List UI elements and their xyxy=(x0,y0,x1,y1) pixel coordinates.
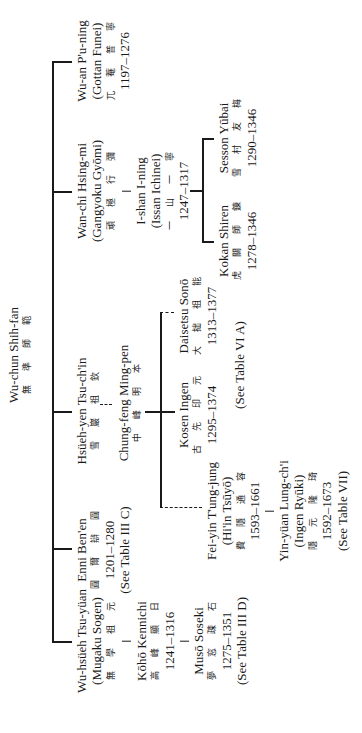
node-name: Wu-hsüeh Tsu-yüan xyxy=(74,589,89,693)
node-wu-chun: Wu-chun Shih-fan 無 準 師 範 xyxy=(6,307,34,403)
node-chinese: 費 隱 通 容 xyxy=(236,462,247,554)
dashed-link-daisetsu xyxy=(160,312,174,313)
i-shan-link xyxy=(190,190,202,192)
node-fei-yin: Fei-yin T'ung-jung (Hi'in Tsūyō) 費 隱 通 容… xyxy=(204,462,263,560)
node-dates: 1295–1374 xyxy=(204,370,219,461)
table-reference: (See Table III C) xyxy=(117,505,132,596)
node-sesson: Sesson Yūbai 雪 村 友 梅 1290–1346 xyxy=(216,93,259,184)
node-name: Yin-yüan Lung-ch'i xyxy=(276,460,291,562)
dashed-link-fei-yin xyxy=(160,507,202,508)
node-chinese: 雪 巖 祖 欽 xyxy=(90,358,101,459)
stub-sesson xyxy=(202,138,214,140)
node-dates: 1278–1346 xyxy=(244,196,259,287)
node-daisetsu: Daisetsu Sonō 大 拙 祖 能 1313–1377 xyxy=(176,271,219,362)
node-kosen: Kosen Ingen 古 先 印 元 1295–1374 xyxy=(176,370,219,461)
node-name: Daisetsu Sonō xyxy=(176,271,191,362)
sub-spine xyxy=(160,313,162,412)
node-name: Kokan Shiren xyxy=(216,196,231,287)
node-chinese: 虎 關 師 錬 xyxy=(232,196,243,281)
node-chinese: 頑 極 行 彌 xyxy=(106,140,117,236)
node-muso: Musō Soseki 夢 窓 疎 石 1275–1351 (See Table… xyxy=(191,596,250,687)
node-alt-name: (Hi'in Tsūyō) xyxy=(219,462,234,560)
node-chinese: 夢 窓 疎 石 xyxy=(207,596,218,681)
node-chinese: 大 拙 祖 能 xyxy=(192,271,203,356)
link-tick xyxy=(122,190,131,191)
node-dates: 1275–1351 xyxy=(219,596,234,687)
node-chinese: 圓 爾 辯 圓 xyxy=(90,505,101,590)
node-chinese: 古 先 印 元 xyxy=(192,370,203,455)
node-yin-yuan: Yin-yüan Lung-ch'i (Ingen Ryūki) 隱 元 隆 琦… xyxy=(276,460,350,562)
node-chinese: 雪 村 友 梅 xyxy=(232,93,243,178)
node-dates: 1197–1276 xyxy=(117,16,132,107)
sub-spine-solid xyxy=(160,412,162,508)
node-alt-name: (Gangyoku Gyōmi) xyxy=(89,140,104,242)
node-chinese: 中 峰 明 本 xyxy=(132,345,143,456)
stub-wu-an xyxy=(52,61,72,63)
node-kokan: Kokan Shiren 虎 關 師 錬 1278–1346 xyxy=(216,196,259,287)
dashed-link xyxy=(100,404,112,405)
main-spine xyxy=(52,62,54,643)
stub-hsueh-yen xyxy=(52,411,72,413)
node-alt-name: (Issan Ichinei) xyxy=(148,146,163,237)
node-chinese: 一 山 一 寧 xyxy=(165,146,176,231)
node-enni: Enni Ben'en 圓 爾 辯 圓 1201–1280 (See Table… xyxy=(74,505,133,596)
node-alt-name: (Gottan Funei) xyxy=(89,16,104,107)
node-dates: 1290–1346 xyxy=(244,93,259,184)
node-wu-hsueh: Wu-hsüeh Tsu-yüan (Mugaku Sogen) 無 學 祖 元 xyxy=(74,589,117,693)
lineage-chart: Wu-chun Shih-fan 無 準 師 範 Wu-hsüeh Tsu-yü… xyxy=(0,0,362,733)
node-wan-chi: Wan-chi Hsing-mi (Gangyoku Gyōmi) 頑 極 行 … xyxy=(74,140,117,242)
node-dates: 1592–1673 xyxy=(319,460,334,562)
node-name: Kosen Ingen xyxy=(176,370,191,461)
node-name: Enni Ben'en xyxy=(74,505,89,596)
node-dates: 1593–1661 xyxy=(247,462,262,560)
i-shan-sub-spine xyxy=(202,139,204,243)
stub-enni xyxy=(52,548,72,550)
node-name: Sesson Yūbai xyxy=(216,93,231,184)
node-name: Wu-chun Shih-fan xyxy=(6,307,21,403)
node-name: Chung-feng Ming-pen xyxy=(116,345,131,462)
node-alt-name: (Mugaku Sogen) xyxy=(89,589,104,693)
link-tick xyxy=(265,510,274,511)
node-name: Musō Soseki xyxy=(191,596,206,687)
node-name: Wu-an P'u-ning xyxy=(74,16,89,107)
table-reference: (See Table III D) xyxy=(234,596,249,687)
node-name: Hsüeh-yen Tsu-ch'in xyxy=(74,358,89,465)
node-chinese: 隱 元 隆 琦 xyxy=(308,460,319,556)
node-name: Fei-yin T'ung-jung xyxy=(204,462,219,560)
node-chung-feng: Chung-feng Ming-pen 中 峰 明 本 xyxy=(116,345,144,462)
node-alt-name: (Ingen Ryūki) xyxy=(291,460,306,562)
node-koho: Kōhō Kennichi 高 峰 顯 日 1241–1316 xyxy=(134,596,177,687)
stub-kokan xyxy=(202,241,214,243)
node-i-shan: I-shan I-ning (Issan Ichinei) 一 山 一 寧 12… xyxy=(133,146,192,237)
link-tick xyxy=(122,640,131,641)
node-dates: 1241–1316 xyxy=(162,596,177,687)
node-chinese: 無 準 師 範 xyxy=(22,307,33,397)
node-chinese: 無 學 祖 元 xyxy=(106,589,117,687)
node-name: Kōhō Kennichi xyxy=(134,596,149,687)
node-dates: 1201–1280 xyxy=(102,505,117,596)
table-reference: (See Table VII) xyxy=(335,460,350,562)
node-name: I-shan I-ning xyxy=(133,146,148,237)
node-name: Wan-chi Hsing-mi xyxy=(74,140,89,242)
node-chinese: 兀 菴 普 寧 xyxy=(106,16,117,101)
table-reference-6a: (See Table VI A) xyxy=(232,321,247,409)
stub-wan-chi xyxy=(52,191,72,193)
node-wu-an: Wu-an P'u-ning (Gottan Funei) 兀 菴 普 寧 11… xyxy=(74,16,133,107)
stub-wu-hsueh xyxy=(52,641,72,643)
link-tick xyxy=(180,640,189,641)
node-chinese: 高 峰 顯 日 xyxy=(150,596,161,681)
node-hsueh-yen: Hsüeh-yen Tsu-ch'in 雪 巖 祖 欽 xyxy=(74,358,102,465)
